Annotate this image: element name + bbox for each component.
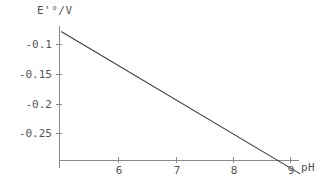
chart-container: E'°/V pH -0.1 -0.15 -0.2 -0.25 6 7 8 9: [0, 0, 327, 188]
data-line-series-1: [61, 31, 300, 173]
y-tick-label-2: -0.15: [0, 68, 52, 81]
x-tick-label-1: 6: [116, 164, 123, 177]
x-tick-label-4: 9: [288, 164, 295, 177]
y-axis-title: E'°/V: [37, 4, 73, 17]
plot-area: [0, 0, 327, 188]
x-tick-label-3: 8: [231, 164, 238, 177]
y-tick-label-4: -0.25: [0, 127, 52, 140]
x-axis-title: pH: [301, 161, 315, 174]
y-tick-label-3: -0.2: [0, 98, 52, 111]
y-tick-label-1: -0.1: [0, 38, 52, 51]
x-tick-label-2: 7: [174, 164, 181, 177]
